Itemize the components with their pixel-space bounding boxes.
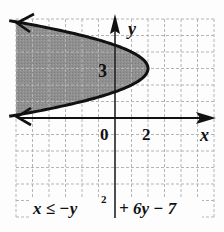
x-axis-label: x xyxy=(199,125,209,145)
equation-exponent: 2 xyxy=(101,193,107,205)
equation-lhs: x ≤ −y xyxy=(32,199,78,218)
inequality-graph: y x 0 2 3 x ≤ −y 2 + 6y − 7 xyxy=(0,0,224,232)
y-axis-label: y xyxy=(126,19,137,39)
origin-label: 0 xyxy=(100,125,109,144)
graph-canvas: y x 0 2 3 x ≤ −y 2 + 6y − 7 xyxy=(0,0,224,232)
y-axis-arrow-icon xyxy=(110,14,120,34)
x-tick-label-2: 2 xyxy=(142,125,151,144)
equation-rhs: + 6y − 7 xyxy=(119,199,178,218)
y-tick-label-3: 3 xyxy=(98,61,107,81)
